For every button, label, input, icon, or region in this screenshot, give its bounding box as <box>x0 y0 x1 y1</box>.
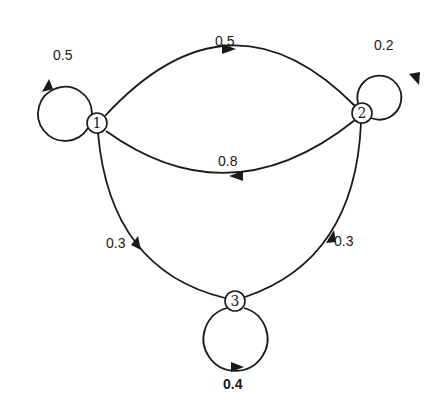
node-1: 1 <box>87 113 107 133</box>
node-1-label: 1 <box>93 115 102 131</box>
self-loop-3 <box>204 308 268 371</box>
node-2-label: 2 <box>358 105 367 121</box>
self-loop-1 <box>38 87 92 141</box>
label-loop-2: 0.2 <box>374 37 394 53</box>
state-diagram: 1 2 3 0.5 0.5 0.2 0.8 0.3 0.3 0.4 <box>0 0 445 400</box>
label-edge-2-1: 0.8 <box>218 153 238 169</box>
node-3: 3 <box>225 291 245 311</box>
label-edge-3-2: 0.3 <box>334 233 354 249</box>
arrow-down-icon <box>409 72 420 85</box>
edge-3-to-1 <box>98 133 225 298</box>
label-edge-3-1: 0.3 <box>106 235 126 251</box>
edge-3-to-2 <box>245 123 361 297</box>
node-3-label: 3 <box>231 293 240 309</box>
node-2: 2 <box>352 103 372 123</box>
label-edge-1-2: 0.5 <box>215 33 235 49</box>
label-loop-3: 0.4 <box>223 376 243 392</box>
diagram-svg: 1 2 3 0.5 0.5 0.2 0.8 0.3 0.3 0.4 <box>0 0 445 400</box>
label-loop-1: 0.5 <box>53 47 73 63</box>
edge-1-to-2 <box>105 45 355 116</box>
